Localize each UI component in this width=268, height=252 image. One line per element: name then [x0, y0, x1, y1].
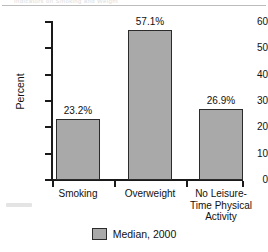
y-tick-60	[45, 21, 51, 23]
y-tick-30	[45, 100, 51, 102]
bar-value-1: 57.1%	[116, 17, 184, 27]
category-label-1: Overweight	[114, 188, 186, 200]
y-axis-line	[51, 21, 53, 181]
category-line: Smoking	[42, 188, 114, 200]
category-line: No Leisure-	[185, 188, 257, 200]
category-line: Time Physical	[185, 200, 257, 212]
legend-swatch-median-2000	[92, 228, 107, 240]
y-tick-0	[45, 179, 51, 181]
bar-0	[56, 119, 100, 180]
y-tick-label-40: 40	[228, 70, 268, 80]
chart-legend: Median, 2000	[0, 228, 268, 240]
legend-label-median-2000: Median, 2000	[113, 229, 177, 240]
category-line: Activity	[185, 211, 257, 223]
category-label-0: Smoking	[42, 188, 114, 200]
y-tick-label-60: 60	[228, 17, 268, 27]
y-axis-label: Percent	[15, 60, 26, 124]
x-tick-0	[52, 181, 54, 187]
y-tick-20	[45, 126, 51, 128]
bar-1	[128, 30, 172, 180]
bar-chart: Percent 0102030405060 23.2%57.1%26.9% Sm…	[0, 0, 268, 252]
category-label-2: No Leisure-Time PhysicalActivity	[185, 188, 257, 223]
bar-value-2: 26.9%	[187, 96, 255, 106]
y-tick-10	[45, 153, 51, 155]
x-tick-2	[186, 181, 188, 187]
bar-value-0: 23.2%	[44, 106, 112, 116]
category-line: Overweight	[114, 188, 186, 200]
x-tick-3	[242, 181, 244, 187]
y-tick-50	[45, 47, 51, 49]
y-tick-label-50: 50	[228, 43, 268, 53]
bar-2	[199, 109, 243, 180]
x-tick-1	[114, 181, 116, 187]
y-tick-40	[45, 74, 51, 76]
